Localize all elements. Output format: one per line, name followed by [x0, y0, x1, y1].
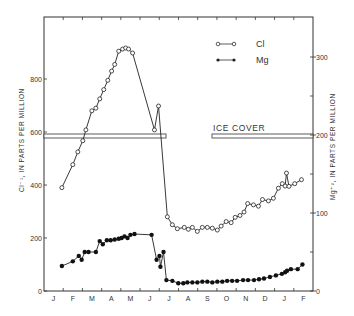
data-point	[113, 62, 117, 66]
data-point	[215, 228, 219, 232]
data-point	[102, 88, 106, 92]
left-tick-label: 0	[38, 288, 42, 295]
data-point	[235, 279, 239, 283]
x-tick-label: J	[52, 295, 56, 302]
data-point	[260, 198, 264, 202]
data-point	[117, 49, 121, 53]
data-point	[300, 262, 304, 266]
data-point	[238, 213, 242, 217]
data-point	[293, 182, 297, 186]
data-point	[113, 237, 117, 241]
right-tick-label: 0	[316, 288, 320, 295]
data-point	[154, 258, 158, 262]
data-point	[287, 184, 291, 188]
data-point	[83, 250, 87, 254]
data-point	[230, 279, 234, 283]
chloride-magnesium-chart: ICE COVER JFMAMJJASONDJF 0200400600800 0…	[0, 0, 354, 316]
data-point	[98, 97, 102, 101]
data-point	[215, 279, 219, 283]
data-point	[106, 78, 110, 82]
data-point	[205, 279, 209, 283]
data-point	[256, 204, 260, 208]
data-point	[71, 163, 75, 167]
right-tick-label: 200	[316, 132, 328, 139]
x-tick-label: S	[205, 295, 210, 302]
data-point	[295, 267, 299, 271]
data-point	[283, 184, 287, 188]
data-point	[86, 250, 90, 254]
legend-label-mg: Mg	[256, 55, 269, 65]
right-tick-label: 100	[316, 210, 328, 217]
data-point	[252, 278, 256, 282]
ice-cover-bar	[212, 134, 313, 138]
x-tick-label: M	[89, 295, 95, 302]
data-point	[233, 215, 237, 219]
data-point	[90, 109, 94, 113]
data-point	[81, 139, 85, 143]
open-circle-marker-icon	[216, 42, 220, 46]
data-point	[149, 233, 153, 237]
data-point	[224, 220, 228, 224]
data-point	[181, 281, 185, 285]
data-point	[241, 278, 245, 282]
data-point	[200, 225, 204, 229]
x-tick-label: A	[186, 295, 191, 302]
left-tick-label: 200	[30, 235, 42, 242]
data-point	[164, 278, 168, 282]
data-point	[127, 47, 131, 51]
x-tick-label: M	[128, 295, 134, 302]
data-point	[229, 221, 233, 225]
data-point	[157, 254, 161, 258]
left-tick-label: 600	[30, 129, 42, 136]
data-point	[60, 264, 64, 268]
data-point	[128, 233, 132, 237]
legend-label-cl: Cl	[256, 39, 265, 49]
x-tick-label: J	[167, 295, 171, 302]
data-point	[105, 238, 109, 242]
ice-cover-bar	[44, 134, 166, 138]
data-point	[79, 258, 83, 262]
data-point	[205, 225, 209, 229]
data-point	[242, 210, 246, 214]
filled-circle-marker-icon	[216, 58, 219, 61]
left-tick-label: 400	[30, 182, 42, 189]
right-axis-title: Mg⁺², IN PARTS PER MILLION	[329, 93, 337, 200]
data-point	[170, 279, 174, 283]
series-mg-line	[60, 232, 305, 286]
data-point	[210, 280, 214, 284]
data-point	[285, 269, 289, 273]
data-point	[190, 225, 194, 229]
open-circle-marker-icon	[232, 42, 236, 46]
data-point	[289, 267, 293, 271]
data-point	[110, 69, 114, 73]
data-point	[176, 281, 180, 285]
x-tick-label: O	[224, 295, 230, 302]
data-point	[251, 203, 255, 207]
data-point	[186, 227, 190, 231]
x-tick-label: A	[109, 295, 114, 302]
data-point	[190, 280, 194, 284]
data-point	[195, 229, 199, 233]
x-tick-label: F	[301, 295, 305, 302]
legend: Cl Mg	[216, 39, 268, 65]
data-point	[60, 186, 64, 190]
data-point	[175, 227, 179, 231]
data-point	[185, 280, 189, 284]
data-point	[94, 106, 98, 110]
data-point	[98, 239, 102, 243]
data-point	[268, 275, 272, 279]
data-point	[101, 242, 105, 246]
data-point	[108, 238, 112, 242]
ice-cover-label: ICE COVER	[213, 123, 265, 133]
x-tick-label: J	[282, 295, 286, 302]
data-point	[299, 178, 303, 182]
data-point	[170, 223, 174, 227]
data-point	[195, 280, 199, 284]
data-point	[271, 196, 275, 200]
data-point	[94, 250, 98, 254]
x-tick-label: J	[148, 295, 152, 302]
x-tick-label: F	[71, 295, 75, 302]
data-point	[182, 225, 186, 229]
series-cl-line	[60, 46, 304, 233]
data-point	[257, 277, 261, 281]
